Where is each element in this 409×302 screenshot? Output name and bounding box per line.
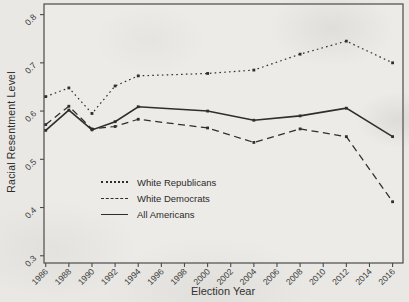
- svg-text:1988: 1988: [53, 266, 74, 287]
- svg-text:0.6: 0.6: [23, 108, 39, 124]
- legend-item-all-americans: All Americans: [101, 206, 216, 222]
- svg-text:0.7: 0.7: [23, 60, 39, 76]
- dashed-line-sample-icon: [101, 198, 128, 199]
- data-point-marker: [206, 110, 209, 113]
- data-point-marker: [252, 69, 255, 72]
- data-point-marker: [44, 95, 47, 98]
- svg-text:0.4: 0.4: [23, 205, 39, 221]
- svg-text:1992: 1992: [99, 266, 120, 287]
- svg-text:2002: 2002: [215, 266, 236, 287]
- data-point-marker: [206, 72, 209, 75]
- svg-text:2010: 2010: [307, 266, 328, 287]
- legend-label: All Americans: [137, 209, 195, 220]
- data-point-marker: [91, 112, 94, 115]
- svg-text:2004: 2004: [238, 266, 259, 287]
- svg-text:2008: 2008: [284, 266, 305, 287]
- y-axis-ticks: 0.30.40.50.60.70.8: [23, 12, 44, 269]
- data-point-marker: [67, 109, 70, 112]
- data-point-marker: [345, 40, 348, 43]
- svg-text:1998: 1998: [168, 266, 189, 287]
- svg-text:1994: 1994: [122, 266, 143, 287]
- data-point-marker: [114, 120, 117, 123]
- data-point-marker: [299, 128, 302, 131]
- svg-text:2006: 2006: [261, 266, 282, 287]
- legend-item-white-democrats: White Democrats: [101, 190, 216, 206]
- data-point-marker: [345, 135, 348, 138]
- data-point-marker: [299, 114, 302, 117]
- data-point-marker: [67, 105, 70, 108]
- data-point-marker: [345, 107, 348, 110]
- x-axis-title: Election Year: [191, 285, 255, 297]
- data-point-marker: [114, 125, 117, 128]
- data-point-marker: [91, 128, 94, 131]
- data-point-marker: [391, 135, 394, 138]
- data-point-marker: [391, 61, 394, 64]
- y-axis-title: Racial Resentment Level: [5, 71, 17, 192]
- data-point-marker: [44, 123, 47, 126]
- legend-item-white-republicans: White Republicans: [101, 174, 216, 190]
- line-chart: 0.30.40.50.60.70.81986198819901992199419…: [0, 0, 409, 302]
- data-point-marker: [206, 127, 209, 130]
- svg-text:1990: 1990: [76, 266, 97, 287]
- svg-text:0.3: 0.3: [23, 253, 39, 269]
- svg-text:1996: 1996: [145, 266, 166, 287]
- data-point-marker: [137, 74, 140, 77]
- dotted-line-sample-icon: [101, 181, 128, 183]
- x-axis-ticks: 1986198819901992199419961998200020022004…: [30, 263, 398, 287]
- legend-label: White Democrats: [137, 193, 210, 204]
- data-point-marker: [299, 53, 302, 56]
- svg-text:2000: 2000: [191, 266, 212, 287]
- legend: White Republicans White Democrats All Am…: [101, 174, 216, 222]
- data-point-marker: [137, 118, 140, 121]
- scanned-line-chart-figure: 0.30.40.50.60.70.81986198819901992199419…: [0, 0, 409, 302]
- data-point-marker: [137, 105, 140, 108]
- svg-text:0.5: 0.5: [23, 156, 39, 172]
- data-point-marker: [252, 141, 255, 144]
- solid-line-sample-icon: [101, 214, 128, 215]
- svg-text:2012: 2012: [330, 266, 351, 287]
- svg-text:1986: 1986: [30, 266, 51, 287]
- data-point-marker: [252, 119, 255, 122]
- svg-text:0.8: 0.8: [23, 12, 39, 28]
- svg-text:2014: 2014: [353, 266, 374, 287]
- data-point-marker: [44, 129, 47, 132]
- data-point-marker: [391, 200, 394, 203]
- svg-text:2016: 2016: [376, 266, 397, 287]
- data-point-marker: [67, 87, 70, 90]
- data-point-marker: [114, 85, 117, 88]
- legend-label: White Republicans: [137, 177, 216, 188]
